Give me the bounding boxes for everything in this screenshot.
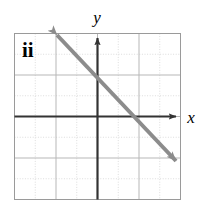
y-axis-label: y [91, 8, 101, 27]
x-axis-label: x [186, 108, 195, 127]
graph-figure: y x ii [0, 0, 207, 210]
panel-label: ii [22, 38, 34, 62]
coordinate-plane-svg: y x ii [0, 0, 207, 210]
